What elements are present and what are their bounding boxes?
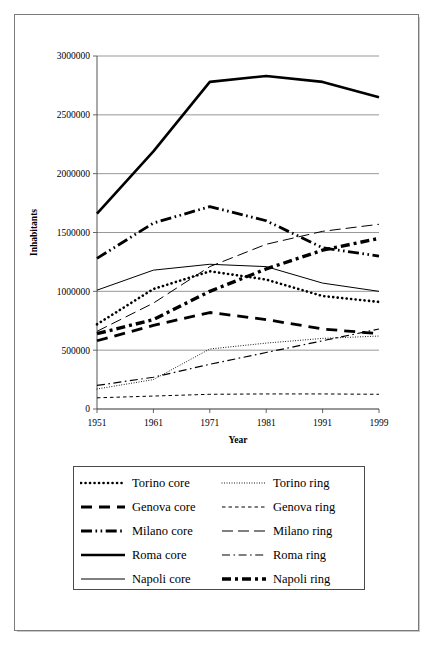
legend-label: Genova ring <box>273 501 335 514</box>
x-tick-label: 1971 <box>200 418 219 428</box>
legend-line-swatch <box>80 573 126 585</box>
legend-line-swatch <box>221 501 267 513</box>
legend-line-swatch <box>80 477 126 489</box>
series-line-genova-ring <box>97 394 379 398</box>
legend-entry: Torino core <box>80 477 221 490</box>
legend-line-swatch <box>80 525 126 537</box>
legend-entry: Genova core <box>80 501 221 514</box>
data-series-group <box>97 76 379 398</box>
legend-label: Napoli ring <box>273 573 330 586</box>
legend-line-swatch <box>221 573 267 585</box>
x-tick-label: 1999 <box>370 418 389 428</box>
legend-entry: Genova ring <box>221 501 362 514</box>
y-tick-label: 1500000 <box>57 228 91 238</box>
legend-line-swatch <box>221 477 267 489</box>
x-tick-label: 1991 <box>313 418 332 428</box>
legend-entry: Torino ring <box>221 477 362 490</box>
legend-label: Torino core <box>132 477 190 490</box>
series-line-genova-core <box>97 313 379 341</box>
x-tick-label: 1981 <box>257 418 276 428</box>
legend-entry: Roma ring <box>221 549 362 562</box>
x-tick-label: 1951 <box>88 418 107 428</box>
series-line-roma-core <box>97 76 379 214</box>
series-line-napoli-core <box>97 264 379 291</box>
legend-entry: Roma core <box>80 549 221 562</box>
x-tick-label: 1961 <box>144 418 163 428</box>
legend-label: Genova core <box>132 501 196 514</box>
legend-label: Roma ring <box>273 549 326 562</box>
legend-line-swatch <box>80 549 126 561</box>
legend-label: Milano ring <box>273 525 332 538</box>
y-tick-label: 2000000 <box>57 169 91 179</box>
y-axis-ticks <box>93 56 97 409</box>
y-tick-label: 500000 <box>62 346 91 356</box>
legend-grid: Torino coreTorino ringGenova coreGenova … <box>74 467 364 589</box>
y-tick-label: 1000000 <box>57 287 91 297</box>
y-tick-label: 2500000 <box>57 110 91 120</box>
legend-line-swatch <box>221 549 267 561</box>
series-line-roma-ring <box>97 329 379 385</box>
y-tick-label: 0 <box>85 404 90 414</box>
legend-entry: Napoli core <box>80 573 221 586</box>
legend-entry: Milano ring <box>221 525 362 538</box>
legend-label: Torino ring <box>273 477 329 490</box>
y-axis-tick-labels: 0500000100000015000002000000250000030000… <box>57 51 91 414</box>
legend-label: Roma core <box>132 549 187 562</box>
legend-line-swatch <box>80 501 126 513</box>
legend-label: Napoli core <box>132 573 191 586</box>
x-axis-tick-labels: 195119611971198119911999 <box>88 418 389 428</box>
chart-legend: Torino coreTorino ringGenova coreGenova … <box>73 466 365 590</box>
x-axis-title: Year <box>229 435 249 445</box>
y-axis-title: Inhabitants <box>29 209 39 256</box>
y-tick-label: 3000000 <box>57 51 91 61</box>
series-line-napoli-ring <box>97 238 379 333</box>
legend-line-swatch <box>221 525 267 537</box>
legend-label: Milano core <box>132 525 193 538</box>
series-line-torino-ring <box>97 336 379 389</box>
gridlines <box>97 56 379 350</box>
legend-entry: Milano core <box>80 525 221 538</box>
legend-entry: Napoli ring <box>221 573 362 586</box>
